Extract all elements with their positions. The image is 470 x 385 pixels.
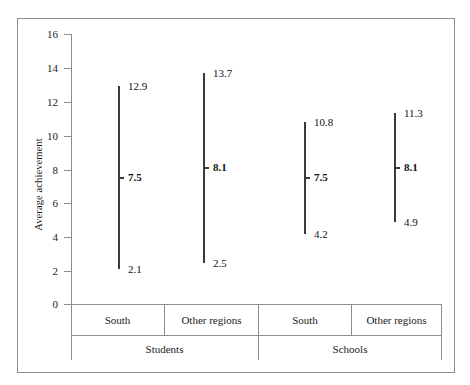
group-label-schools: Schools	[259, 343, 441, 355]
cat-label-students-south: South	[71, 314, 164, 326]
mean-label-schools-other: 8.1	[404, 162, 418, 173]
min-label-students-other: 2.5	[213, 258, 227, 269]
y-tick-label-14: 14	[47, 63, 58, 74]
y-tick-label-16: 16	[47, 29, 58, 40]
plot-area: Average achievement 16 14 12 10 8 6 4 2 …	[18, 19, 454, 372]
y-axis-title: Average achievement	[33, 95, 44, 275]
max-label-students-south: 12.9	[128, 81, 147, 92]
min-label-students-south: 2.1	[128, 264, 142, 275]
y-tick-label-2: 2	[53, 266, 59, 277]
y-tick-label-8: 8	[53, 165, 59, 176]
cat-label-schools-other: Other regions	[352, 314, 441, 326]
max-label-students-other: 13.7	[213, 68, 232, 79]
table-mid-rule	[71, 335, 442, 336]
mean-label-students-other: 8.1	[213, 162, 227, 173]
y-tick-8	[64, 170, 71, 171]
mean-marker-students-south	[118, 177, 124, 179]
y-tick-6	[64, 203, 71, 204]
y-tick-16	[64, 34, 71, 35]
cat-label-students-other: Other regions	[165, 314, 258, 326]
y-axis-line	[71, 34, 72, 305]
y-tick-label-0: 0	[53, 299, 59, 310]
max-label-schools-south: 10.8	[314, 117, 333, 128]
min-label-schools-south: 4.2	[314, 229, 328, 240]
y-tick-label-12: 12	[47, 97, 58, 108]
group-label-students: Students	[71, 343, 258, 355]
y-tick-12	[64, 102, 71, 103]
mean-marker-schools-other	[394, 167, 400, 169]
y-tick-10	[64, 136, 71, 137]
table-top-rule	[71, 304, 442, 305]
category-table: South Other regions South Other regions …	[71, 304, 442, 360]
y-tick-4	[64, 237, 71, 238]
table-edge-right	[441, 304, 442, 360]
chart-figure: Average achievement 16 14 12 10 8 6 4 2 …	[17, 18, 455, 373]
y-tick-14	[64, 68, 71, 69]
mean-label-students-south: 7.5	[128, 172, 142, 183]
y-tick-0	[64, 304, 71, 305]
min-label-schools-other: 4.9	[404, 217, 418, 228]
y-tick-2	[64, 271, 71, 272]
mean-marker-schools-south	[304, 177, 310, 179]
max-label-schools-other: 11.3	[404, 108, 423, 119]
mean-label-schools-south: 7.5	[314, 172, 328, 183]
mean-marker-students-other	[203, 167, 209, 169]
cat-label-schools-south: South	[259, 314, 351, 326]
y-tick-label-6: 6	[53, 198, 59, 209]
y-tick-label-10: 10	[47, 131, 58, 142]
y-tick-label-4: 4	[53, 232, 59, 243]
